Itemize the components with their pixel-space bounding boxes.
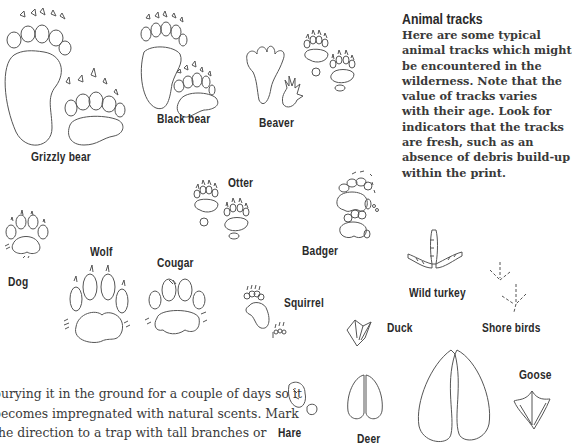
sidebar-line: are fresh, such as an <box>402 135 554 150</box>
sidebar-line: indicators that the tracks <box>402 120 554 135</box>
large-hoof-track-icon <box>415 346 495 444</box>
grizzly-bear-label: Grizzly bear <box>31 150 91 164</box>
body-line: the direction to a trap with tall branch… <box>0 423 302 443</box>
shore-birds-track-icon <box>488 262 533 314</box>
sidebar-line: animal tracks which might <box>402 43 554 58</box>
otter-top-track-icon <box>302 30 362 95</box>
wolf-label: Wolf <box>90 245 113 259</box>
sidebar-line: value of tracks varies <box>402 89 554 104</box>
squirrel-label: Squirrel <box>284 296 324 310</box>
cougar-label: Cougar <box>157 256 194 270</box>
duck-label: Duck <box>387 321 413 335</box>
deer-label: Deer <box>357 432 380 446</box>
sidebar-line: absence of debris build-up <box>402 150 554 165</box>
beaver-label: Beaver <box>259 116 294 130</box>
sidebar-line: Here are some typical <box>402 28 554 43</box>
otter-label: Otter <box>228 176 253 190</box>
wolf-track-icon <box>62 265 132 345</box>
body-line: burying it in the ground for a couple of… <box>0 384 302 404</box>
badger-label: Badger <box>302 244 338 258</box>
sidebar-description: Here are some typical animal tracks whic… <box>402 28 554 181</box>
goose-label: Goose <box>519 368 552 382</box>
body-line: becomes impregnated with natural scents.… <box>0 404 302 424</box>
dog-track-icon <box>3 210 48 260</box>
sidebar-title: Animal tracks <box>402 10 483 27</box>
sidebar-line: with their age. Look for <box>402 104 554 119</box>
duck-track-icon <box>345 318 375 348</box>
black-bear-track-icon <box>138 12 228 112</box>
badger-track-icon <box>330 168 390 243</box>
sidebar-line: within the print. <box>402 166 554 181</box>
sidebar-line: wilderness. Note that the <box>402 74 554 89</box>
wild-turkey-label: Wild turkey <box>409 286 466 300</box>
squirrel-track-icon <box>243 286 288 341</box>
deer-track-icon <box>346 373 386 423</box>
cougar-track-icon <box>145 278 210 338</box>
wild-turkey-track-icon <box>406 228 466 278</box>
grizzly-bear-track-icon <box>4 10 124 145</box>
shore-birds-label: Shore birds <box>482 321 541 335</box>
goose-track-icon <box>512 389 552 434</box>
sidebar-line: be encountered in the <box>402 59 554 74</box>
dog-label: Dog <box>8 275 28 289</box>
body-text: burying it in the ground for a couple of… <box>0 384 302 443</box>
black-bear-label: Black bear <box>157 112 210 126</box>
